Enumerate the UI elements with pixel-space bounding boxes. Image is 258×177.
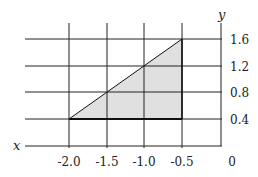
y-tick-label: 1.6 [230, 33, 249, 47]
y-tick-label: 0.4 [230, 113, 249, 127]
x-tick-label: -0.5 [170, 155, 193, 169]
x-tick-label: -2.0 [57, 155, 80, 169]
y-tick-label: 1.2 [230, 60, 249, 74]
x-axis-label: x [13, 138, 21, 153]
chart-figure: x y -2.0 -1.5 -1.0 -0.5 0 1.6 1.2 0.8 0.… [0, 0, 258, 177]
origin-label: 0 [228, 155, 236, 169]
x-tick-label: -1.5 [95, 155, 118, 169]
y-axis-label: y [217, 7, 226, 22]
y-tick-label: 0.8 [230, 86, 249, 100]
x-tick-label: -1.0 [132, 155, 155, 169]
